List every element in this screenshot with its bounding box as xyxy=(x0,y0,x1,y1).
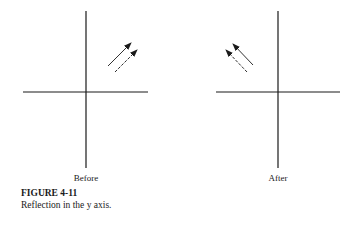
before-panel xyxy=(23,11,148,168)
after-panel xyxy=(216,11,340,168)
figure-caption: Reflection in the y axis. xyxy=(21,200,112,210)
before-dashed-arrow-icon xyxy=(115,50,137,72)
after-label: After xyxy=(248,173,308,183)
before-solid-arrow-icon xyxy=(108,43,131,66)
after-dashed-arrow-icon xyxy=(226,50,247,72)
figure-number: FIGURE 4-11 xyxy=(21,188,77,198)
after-solid-arrow-icon xyxy=(233,44,253,65)
before-label: Before xyxy=(56,173,116,183)
